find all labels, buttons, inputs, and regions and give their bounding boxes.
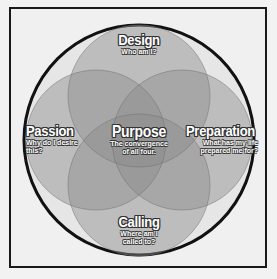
preparation-title: Preparation xyxy=(186,123,258,138)
calling-subtitle-2: called to? xyxy=(104,238,174,246)
calling-title: Calling xyxy=(104,214,174,229)
calling-subtitle-1: Where am I xyxy=(104,230,174,238)
purpose-subtitle-1: The convergence xyxy=(104,140,174,148)
design-title: Design xyxy=(99,32,179,47)
label-passion: Passion Why do I desire this? xyxy=(26,124,84,155)
design-subtitle: Who am I? xyxy=(99,48,179,56)
preparation-subtitle-2: prepared me for? xyxy=(186,147,258,155)
label-preparation: Preparation What has my life prepared me… xyxy=(186,124,258,155)
passion-title: Passion xyxy=(26,123,84,138)
label-design: Design Who am I? xyxy=(99,33,179,56)
label-purpose: Purpose The convergence of all four. xyxy=(104,124,174,156)
passion-subtitle-1: Why do I desire xyxy=(26,139,84,147)
purpose-title: Purpose xyxy=(104,123,174,139)
passion-subtitle-2: this? xyxy=(26,147,84,155)
preparation-subtitle-1: What has my life xyxy=(186,139,258,147)
label-calling: Calling Where am I called to? xyxy=(104,215,174,246)
purpose-subtitle-2: of all four. xyxy=(104,148,174,156)
